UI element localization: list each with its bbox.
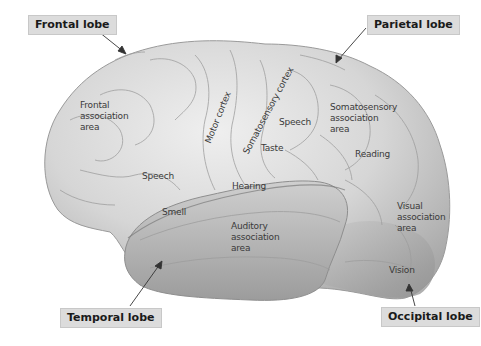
temporal-lobe-label: Temporal lobe bbox=[60, 308, 162, 328]
frontal-lobe-label: Frontal lobe bbox=[28, 15, 117, 35]
region-auditory-association-area: Auditory association area bbox=[231, 221, 279, 254]
region-reading: Reading bbox=[355, 149, 390, 160]
region-frontal-association-area: Frontal association area bbox=[80, 100, 128, 133]
brain-diagram: Frontal lobe Parietal lobe Temporal lobe… bbox=[0, 0, 481, 346]
region-smell: Smell bbox=[162, 207, 186, 218]
region-hearing: Hearing bbox=[232, 181, 266, 192]
region-speech-parietal: Speech bbox=[279, 117, 311, 128]
region-taste: Taste bbox=[261, 143, 283, 154]
region-somatosensory-association-area: Somatosensory association area bbox=[330, 102, 397, 135]
brain-illustration bbox=[0, 0, 481, 346]
occipital-lobe-label: Occipital lobe bbox=[381, 307, 480, 327]
parietal-lobe-label: Parietal lobe bbox=[367, 15, 460, 35]
region-speech-frontal: Speech bbox=[142, 171, 174, 182]
region-vision: Vision bbox=[389, 265, 415, 276]
region-visual-association-area: Visual association area bbox=[397, 201, 445, 234]
